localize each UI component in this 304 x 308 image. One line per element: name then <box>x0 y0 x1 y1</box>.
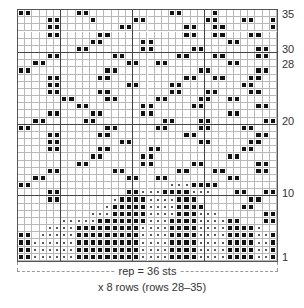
dot-symbol <box>49 256 51 258</box>
dot-symbol <box>164 234 166 236</box>
filled-square-symbol <box>235 190 239 194</box>
filled-square-symbol <box>141 205 145 209</box>
filled-square-symbol <box>149 40 153 44</box>
dot-symbol <box>63 256 65 258</box>
chart-cell <box>205 211 212 218</box>
chart-cell <box>191 196 198 203</box>
chart-cell <box>255 89 262 96</box>
filled-square-symbol <box>184 76 188 80</box>
chart-cell <box>68 225 75 232</box>
chart-cell <box>40 53 47 60</box>
filled-square-symbol <box>113 205 117 209</box>
chart-cell <box>191 24 198 31</box>
chart-cell <box>148 110 155 117</box>
filled-square-symbol <box>127 226 131 230</box>
chart-cell <box>234 17 241 24</box>
chart-cell <box>176 125 183 132</box>
chart-cell <box>212 39 219 46</box>
chart-cell <box>227 32 234 39</box>
filled-square-symbol <box>55 90 59 94</box>
filled-square-symbol <box>192 25 196 29</box>
chart-cell <box>76 39 83 46</box>
filled-square-symbol <box>33 61 37 65</box>
chart-cell <box>104 60 111 67</box>
chart-cell <box>248 53 255 60</box>
chart-cell <box>270 196 277 203</box>
chart-cell <box>104 89 111 96</box>
chart-cell <box>212 211 219 218</box>
chart-cell <box>270 175 277 182</box>
chart-cell <box>234 24 241 31</box>
chart-cell <box>119 153 126 160</box>
chart-cell <box>263 239 270 246</box>
chart-cell <box>40 89 47 96</box>
chart-cell <box>227 146 234 153</box>
chart-cell <box>234 10 241 17</box>
chart-cell <box>155 247 162 254</box>
chart-cell <box>32 10 39 17</box>
chart-cell <box>68 96 75 103</box>
chart-cell <box>183 17 190 24</box>
chart-cell <box>263 146 270 153</box>
dot-symbol <box>207 191 209 193</box>
chart-cell <box>241 175 248 182</box>
chart-cell <box>90 103 97 110</box>
chart-cell <box>148 89 155 96</box>
chart-cell <box>97 10 104 17</box>
chart-cell <box>219 254 226 261</box>
filled-square-symbol <box>264 47 268 51</box>
chart-cell <box>61 168 68 175</box>
chart-cell <box>155 196 162 203</box>
chart-cell <box>97 82 104 89</box>
chart-cell <box>227 103 234 110</box>
chart-cell <box>176 196 183 203</box>
filled-square-symbol <box>199 140 203 144</box>
chart-cell <box>25 239 32 246</box>
filled-square-symbol <box>271 119 275 123</box>
filled-square-symbol <box>134 18 138 22</box>
chart-cell <box>133 75 140 82</box>
chart-cell <box>32 32 39 39</box>
chart-cell <box>241 247 248 254</box>
chart-cell <box>83 247 90 254</box>
chart-cell <box>219 17 226 24</box>
chart-cell <box>191 103 198 110</box>
chart-cell <box>40 67 47 74</box>
chart-cell <box>270 182 277 189</box>
chart-cell <box>227 75 234 82</box>
chart-cell <box>97 247 104 254</box>
chart-cell <box>97 204 104 211</box>
chart-cell <box>155 132 162 139</box>
chart-cell <box>263 75 270 82</box>
chart-cell <box>140 96 147 103</box>
filled-square-symbol <box>98 133 102 137</box>
chart-cell <box>169 89 176 96</box>
chart-cell <box>104 82 111 89</box>
chart-cell <box>255 225 262 232</box>
major-row-line <box>18 52 277 53</box>
chart-cell <box>133 247 140 254</box>
chart-cell <box>219 60 226 67</box>
chart-cell <box>241 53 248 60</box>
chart-cell <box>112 211 119 218</box>
dot-symbol <box>258 234 260 236</box>
chart-cell <box>18 60 25 67</box>
chart-cell <box>169 175 176 182</box>
filled-square-symbol <box>256 47 260 51</box>
chart-cell <box>47 125 54 132</box>
filled-square-symbol <box>91 255 95 259</box>
chart-cell <box>219 232 226 239</box>
chart-cell <box>176 254 183 261</box>
dot-symbol <box>171 206 173 208</box>
filled-square-symbol <box>127 255 131 259</box>
chart-cell <box>140 24 147 31</box>
filled-square-symbol <box>235 240 239 244</box>
dot-symbol <box>222 227 224 229</box>
chart-cell <box>176 232 183 239</box>
chart-cell <box>234 60 241 67</box>
chart-cell <box>18 182 25 189</box>
row-repeat-label: x 8 rows (rows 28–35) <box>0 281 304 293</box>
chart-cell <box>112 110 119 117</box>
chart-cell <box>76 24 83 31</box>
chart-cell <box>255 67 262 74</box>
